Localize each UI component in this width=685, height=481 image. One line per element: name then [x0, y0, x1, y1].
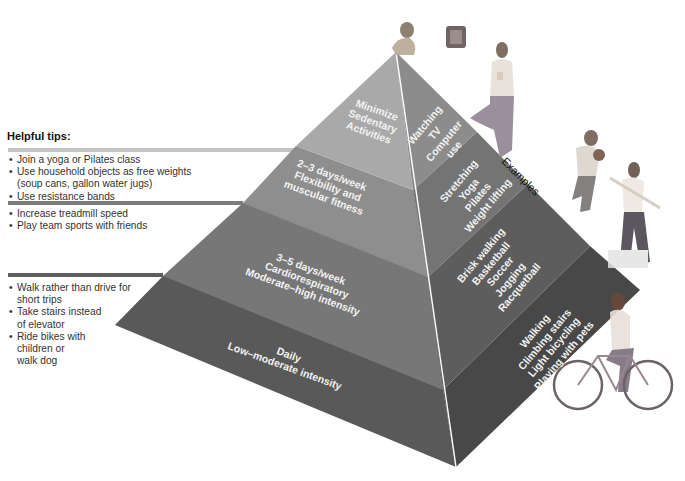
- pyramid-graphic: [0, 0, 685, 481]
- woman-stretching-icon: [608, 162, 660, 268]
- man-running-icon: [572, 130, 605, 212]
- person-watching-tv-icon: [392, 22, 466, 55]
- activity-pyramid-figure: Helpful tips: Join a yoga or Pilates cla…: [0, 0, 685, 481]
